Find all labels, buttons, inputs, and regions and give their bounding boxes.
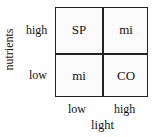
cell-low-nutrients-low-light: mi	[56, 54, 102, 98]
x-tick-low: low	[68, 102, 86, 117]
grid: SP mi mi CO	[55, 7, 148, 97]
x-tick-high: high	[114, 102, 135, 117]
cell-high-nutrients-high-light: mi	[103, 8, 149, 52]
y-tick-low: low	[29, 68, 47, 83]
cell-high-nutrients-low-light: SP	[56, 8, 102, 52]
x-axis-title: light	[91, 118, 114, 133]
y-tick-high: high	[26, 23, 47, 38]
cell-low-nutrients-high-light: CO	[103, 54, 149, 98]
y-axis-title: nutrients	[2, 25, 17, 75]
